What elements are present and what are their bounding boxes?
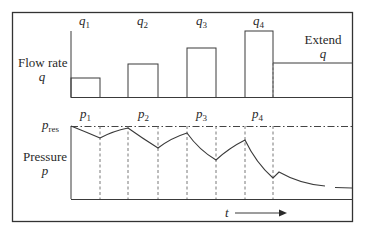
label-p2: p2 — [138, 107, 149, 125]
bar-q2 — [128, 64, 158, 98]
pressure-curve — [71, 126, 325, 186]
label-q1: q1 — [79, 14, 90, 32]
period-dividers — [100, 126, 273, 199]
flow-rate-axis-symbol: q — [18, 70, 66, 84]
bar-q4 — [245, 31, 273, 98]
bar-q1 — [71, 78, 100, 98]
time-axis-label: t — [225, 206, 229, 220]
label-p3: p3 — [196, 107, 207, 125]
pressure-curve-tail — [335, 188, 352, 189]
pressure-panel — [71, 126, 353, 200]
p-res-label: pres — [42, 118, 59, 136]
label-p1: p1 — [80, 107, 91, 125]
extend-q-symbol: q — [293, 47, 353, 61]
label-q3: q3 — [196, 14, 207, 32]
label-q2: q2 — [137, 14, 148, 32]
pressure-axis-symbol: p — [18, 164, 72, 178]
arrow-head-icon — [279, 210, 287, 217]
label-q4: q4 — [253, 14, 264, 32]
flow-rate-axis-label: Flow rate — [18, 56, 66, 70]
time-arrow — [235, 210, 287, 217]
label-p4: p4 — [252, 107, 263, 125]
pressure-axis-label: Pressure — [18, 150, 72, 164]
extend-label: Extend — [293, 33, 353, 47]
bar-q3 — [187, 48, 216, 98]
